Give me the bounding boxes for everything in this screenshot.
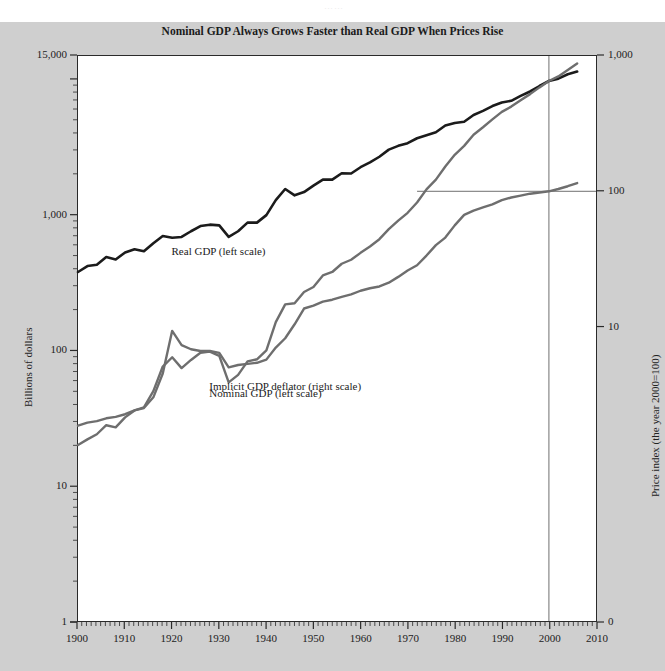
- axes-svg: [0, 22, 665, 671]
- y-right-tick-label-1,000: 1,000: [608, 48, 665, 60]
- faint-header-text: ……: [299, 1, 369, 13]
- x-tick-label-2010: 2010: [569, 632, 625, 644]
- y-axis-title-right: Price index (the year 2000=100): [649, 355, 661, 497]
- y-right-tick-label-100: 100: [608, 184, 665, 196]
- series-annotation-3: Implicit GDP deflator (right scale): [209, 380, 361, 392]
- y-axis-title-left: Billions of dollars: [22, 327, 34, 406]
- chart-figure: Nominal GDP Always Grows Faster than Rea…: [0, 22, 665, 671]
- y-right-tick-label-0: 0: [608, 615, 648, 627]
- y-right-tick-label-10: 10: [608, 320, 665, 332]
- y-left-tick-label-1: 1: [7, 615, 67, 627]
- y-left-tick-label-1,000: 1,000: [7, 208, 67, 220]
- series-annotation-1: Real GDP (left scale): [172, 245, 266, 257]
- y-left-tick-label-100: 100: [7, 343, 67, 355]
- y-left-tick-label-10: 10: [7, 479, 67, 491]
- y-left-tick-label-15,000: 15,000: [7, 48, 67, 60]
